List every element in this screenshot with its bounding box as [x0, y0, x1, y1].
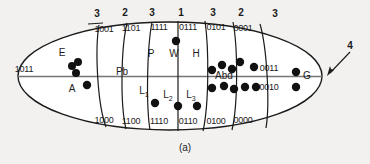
region-label-a: A [69, 84, 76, 94]
top-code-tc1: 1001 [94, 25, 113, 34]
marker-dot-abd [236, 58, 244, 66]
region-label-g: G [303, 71, 311, 81]
marker-dot-g [292, 83, 300, 91]
bottom-code-bc5: 0100 [206, 117, 225, 126]
marker-dot-abd [220, 82, 228, 90]
segment-number-sn6: 2 [238, 8, 244, 18]
marker-dot-w [172, 37, 180, 45]
segment-number-sn7: 3 [272, 9, 278, 19]
marker-dot-abd [208, 84, 216, 92]
side-code-right-code-lower: 0010 [259, 83, 278, 92]
marker-dot-l3 [193, 102, 201, 110]
segment-number-sn4: 1 [178, 8, 184, 18]
marker-dot-l1 [151, 99, 159, 107]
region-label-p: P [148, 49, 155, 59]
bottom-code-bc4: 0110 [179, 117, 198, 126]
region-label-pb: Pb [116, 67, 128, 77]
marker-dot-e [68, 62, 76, 70]
top-code-tc6: 0001 [233, 24, 252, 33]
segment-number-sn2: 2 [122, 8, 128, 18]
marker-dot-l2 [174, 102, 182, 110]
region-label-l3: L3 [186, 90, 195, 102]
region-label-w: W [169, 49, 178, 59]
segment-number-sn3: 3 [149, 8, 155, 18]
marker-dot-g [292, 68, 300, 76]
marker-dot-abd [241, 83, 249, 91]
marker-dot-e [83, 81, 91, 89]
bottom-code-bc3: 1110 [150, 117, 168, 126]
marker-dot-e [72, 69, 80, 77]
embryo-segment-figure: 3231323 100111011111011101010001 1000110… [0, 0, 370, 164]
figure-caption: (a) [0, 142, 370, 153]
top-code-tc5: 0101 [206, 23, 225, 32]
bottom-code-bc1: 1000 [94, 116, 113, 125]
top-code-tc2: 1101 [122, 24, 141, 33]
marker-dot-abd [230, 85, 238, 93]
side-code-left-code: 1011 [15, 65, 34, 74]
arrow-4-head [327, 66, 334, 76]
bottom-code-bc2: 1100 [122, 117, 141, 126]
top-code-tc4: 0111 [179, 23, 197, 32]
arrow-4-label: 4 [347, 41, 353, 51]
segment-number-sn5: 3 [210, 8, 216, 18]
top-code-tc3: 1111 [150, 23, 167, 32]
bottom-code-bc6: 0000 [233, 116, 252, 125]
region-label-l1: L1 [139, 86, 148, 98]
region-label-e: E [59, 48, 66, 58]
marker-dot-abd [218, 61, 226, 69]
region-label-abd: Abd [215, 71, 233, 81]
region-label-h: H [192, 49, 199, 59]
side-code-right-code-upper: 0011 [260, 64, 279, 73]
marker-dot-abd [250, 63, 258, 71]
region-label-l2: L2 [163, 90, 172, 102]
segment-number-sn1: 3 [94, 9, 100, 19]
